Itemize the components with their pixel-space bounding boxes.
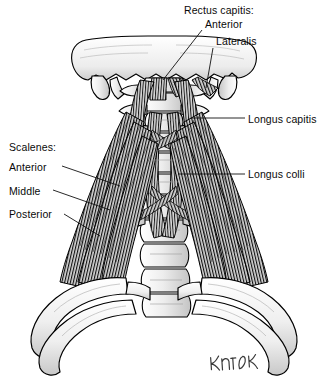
label-scalenes-header: Scalenes: (9, 141, 56, 153)
artist-signature (207, 350, 262, 374)
label-longus-colli: Longus colli (248, 168, 305, 180)
label-scalene-posterior: Posterior (9, 208, 52, 220)
label-scalene-middle: Middle (9, 185, 41, 197)
label-rectus-capitis-lateralis: Lateralis (216, 35, 257, 47)
anatomy-illustration (0, 0, 328, 382)
label-rectus-capitis-anterior: Anterior (205, 18, 243, 30)
label-scalene-anterior: Anterior (9, 161, 47, 173)
label-longus-capitis: Longus capitis (248, 113, 317, 125)
label-rectus-capitis-header: Rectus capitis: (184, 4, 254, 16)
